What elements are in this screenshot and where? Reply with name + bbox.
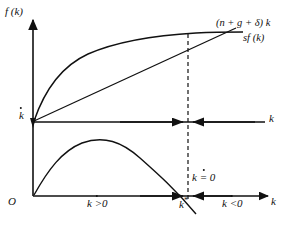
k-star-label: k* [179,197,188,210]
origin-label: O [8,196,16,207]
y-axis-label: f (k) [5,6,23,17]
overdot-icon [231,195,233,197]
kdot-positive-label: k >0 [87,198,108,209]
break-even-curve-label: (n + g + δ) k [216,18,270,29]
upper-x-axis-label: k [269,113,274,124]
lower-x-axis-label: k [271,196,276,207]
saving-curve [34,32,243,121]
saving-curve-label: sf (k) [243,33,264,44]
overdot-icon [96,195,98,197]
break-even-line [34,28,236,121]
kdot-zero-label: k = 0 [192,172,215,183]
k-level-label: k [19,110,24,121]
kdot-curve [34,140,196,214]
kdot-negative-label: k <0 [222,198,243,209]
solow-model-figure: f (k) (n + g + δ) k sf (k) k k O k >0 k*… [0,0,291,233]
overdot-icon [20,107,22,109]
overdot-icon [202,169,204,171]
